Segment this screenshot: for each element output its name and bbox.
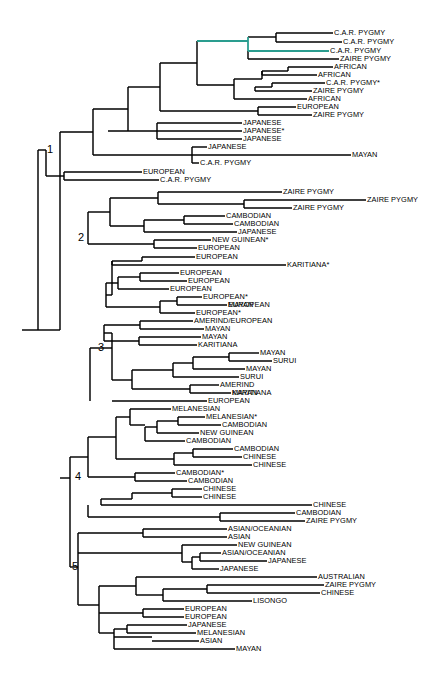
leaf-label: ZAIRE PYGMY xyxy=(306,516,357,525)
leaf-label: CHINESE xyxy=(321,588,354,597)
leaf-label: EUROPEAN xyxy=(198,243,240,252)
leaf-label: C.A.R. PYGMY xyxy=(334,28,385,37)
leaf-label: KARITIANA* xyxy=(287,260,329,269)
leaf-label: LISONGO xyxy=(253,596,287,605)
phylogenetic-tree-figure: C.A.R. PYGMYC.A.R. PYGMYC.A.R. PYGMYZAIR… xyxy=(0,0,448,683)
leaf-label: ASIAN xyxy=(200,636,222,645)
leaf-label: KARITIANA xyxy=(198,340,237,349)
tree-canvas: C.A.R. PYGMYC.A.R. PYGMYC.A.R. PYGMYZAIR… xyxy=(0,0,448,683)
leaf-label: ZAIRE PYGMY xyxy=(283,187,334,196)
leaf-label: EUROPEAN xyxy=(196,252,238,261)
leaf-label: CHINESE xyxy=(253,460,286,469)
leaf-label: JAPANESE xyxy=(268,556,306,565)
leaf-label: ZAIRE PYGMY xyxy=(313,110,364,119)
clade-number-3: 3 xyxy=(98,341,104,353)
leaf-label: ZAIRE PYGMY xyxy=(293,203,344,212)
leaf-label: JAPANESE xyxy=(243,134,281,143)
leaf-label: MAYAN xyxy=(352,150,377,159)
clade-number-4: 4 xyxy=(75,470,81,482)
leaf-label: CAMBODIAN xyxy=(186,436,231,445)
leaf-label: MAYAN xyxy=(236,644,261,653)
leaf-label: C.A.R. PYGMY xyxy=(343,37,394,46)
leaf-label: C.A.R. PYGMY xyxy=(200,158,251,167)
leaf-label: ZAIRE PYGMY xyxy=(367,195,418,204)
leaf-label: SURUI xyxy=(273,356,296,365)
leaf-label: CHINESE xyxy=(203,492,236,501)
clade-number-5: 5 xyxy=(72,560,78,572)
clade-number-1: 1 xyxy=(47,143,53,155)
leaf-label: C.A.R. PYGMY xyxy=(160,175,211,184)
leaf-label: JAPANESE xyxy=(220,564,258,573)
leaf-label: JAPANESE xyxy=(208,142,246,151)
clade-number-2: 2 xyxy=(78,231,84,243)
